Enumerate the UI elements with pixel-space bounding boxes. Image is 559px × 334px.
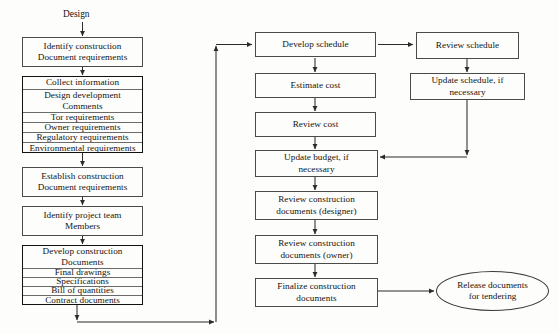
group-row-design-development[interactable]: Design development Comments <box>23 90 142 113</box>
node-review-cost[interactable]: Review cost <box>255 112 376 137</box>
group-row-environmental-requirements[interactable]: Environmental requirements <box>23 143 142 154</box>
node-establish-construction[interactable]: Establish construction Document requirem… <box>22 167 143 197</box>
node-finalize-construction-documents[interactable]: Finalize construction documents <box>255 278 378 307</box>
group-row-collect-information[interactable]: Collect information <box>23 77 142 90</box>
node-review-documents-designer[interactable]: Review construction documents (designer) <box>255 191 378 220</box>
develop-construction-group: Develop construction Documents Final dra… <box>22 245 143 305</box>
node-update-schedule[interactable]: Update schedule, if necessary <box>410 73 525 100</box>
group-row-regulatory-requirements[interactable]: Regulatory requirements <box>23 133 142 143</box>
node-identify-construction[interactable]: Identify construction Document requireme… <box>22 37 143 67</box>
group-row-contract-documents[interactable]: Contract documents <box>23 296 142 306</box>
node-update-budget[interactable]: Update budget, if necessary <box>255 150 378 177</box>
flowchart-canvas: Design Identify construction Document re… <box>0 0 559 334</box>
node-review-documents-owner[interactable]: Review construction documents (owner) <box>255 235 378 264</box>
group-row-develop-construction[interactable]: Develop construction Documents <box>23 246 142 269</box>
node-release-documents-oval[interactable]: Release documents for tendering <box>436 271 549 311</box>
node-identify-project-team[interactable]: Identify project team Members <box>22 206 143 236</box>
design-label: Design <box>63 9 90 19</box>
node-estimate-cost[interactable]: Estimate cost <box>255 73 376 98</box>
node-develop-schedule[interactable]: Develop schedule <box>255 32 376 57</box>
node-review-schedule[interactable]: Review schedule <box>416 32 519 59</box>
collect-information-group: Collect information Design development C… <box>22 76 143 153</box>
